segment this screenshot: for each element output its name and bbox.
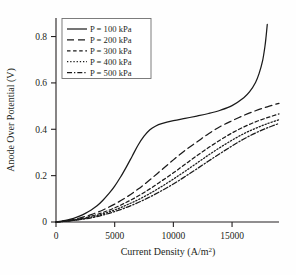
series-line-3 (56, 114, 279, 222)
y-axis-ticks (51, 37, 56, 222)
legend-label-3: P = 300 kPa (90, 46, 132, 56)
svg-text:Current Density (A/m2): Current Density (A/m2) (121, 246, 216, 259)
y-tick-label: 0 (42, 217, 47, 227)
x-tick-label: 5000 (105, 231, 124, 241)
y-axis-title: Anode Over Potential (V) (5, 68, 17, 172)
x-axis-title: Current Density (A/m2) (121, 246, 216, 259)
legend-label-4: P = 400 kPa (90, 57, 132, 67)
y-tick-label: 0.8 (35, 32, 47, 42)
legend-label-2: P = 200 kPa (90, 35, 132, 45)
legend-label-1: P = 100 kPa (90, 24, 132, 34)
x-axis-ticks (56, 222, 232, 227)
series-line-2 (56, 103, 279, 222)
y-tick-label: 0.6 (35, 78, 47, 88)
x-tick-label: 0 (54, 231, 59, 241)
chart-figure: 00.20.40.60.8 050001000015000 Anode Over… (0, 0, 296, 275)
legend-label-5: P = 500 kPa (90, 68, 132, 78)
y-tick-label: 0.2 (35, 171, 47, 181)
x-tick-label: 15000 (220, 231, 244, 241)
line-chart-canvas: 00.20.40.60.8 050001000015000 Anode Over… (0, 0, 296, 275)
y-axis-tick-labels: 00.20.40.60.8 (35, 32, 47, 227)
series-line-4 (56, 120, 279, 222)
x-tick-label: 10000 (161, 231, 185, 241)
chart-legend: P = 100 kPaP = 200 kPaP = 300 kPaP = 400… (62, 19, 151, 79)
x-axis-tick-labels: 050001000015000 (54, 231, 245, 241)
y-tick-label: 0.4 (35, 125, 47, 135)
series-line-5 (56, 123, 279, 222)
